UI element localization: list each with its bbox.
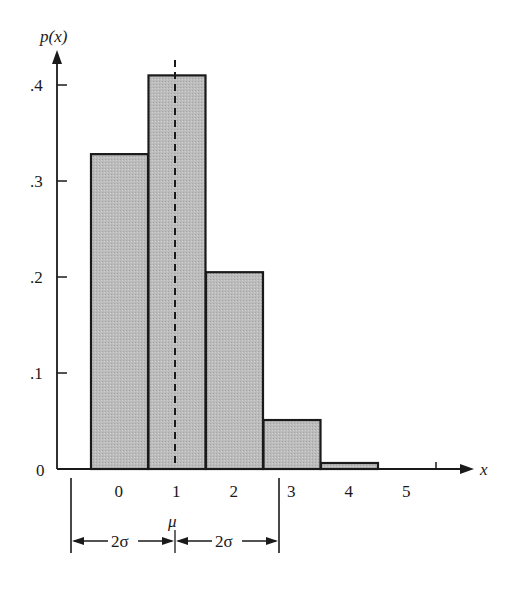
- x-tick-label: 2: [230, 482, 239, 501]
- x-tick-labels: 012345: [115, 482, 411, 501]
- x-axis-label: x: [479, 460, 488, 479]
- bar-2: [206, 272, 263, 469]
- bar-1: [149, 75, 206, 469]
- bar-3: [264, 420, 321, 469]
- y-zero-label: 0: [36, 461, 45, 480]
- right-two-sigma-label: 2σ: [215, 532, 233, 551]
- x-tick-label: 5: [402, 482, 411, 501]
- x-tick-label: 3: [287, 482, 296, 501]
- y-tick-label: .4: [30, 76, 43, 95]
- y-ticks: .1.2.3.4: [30, 76, 67, 383]
- x-tick-label: 4: [345, 482, 354, 501]
- bars-group: [91, 75, 378, 469]
- y-tick-label: .2: [30, 268, 43, 287]
- arrow-right-icon: [266, 537, 278, 545]
- x-axis-arrow-icon: [460, 464, 474, 474]
- y-axis-arrow-icon: [52, 50, 62, 64]
- left-two-sigma-label: 2σ: [111, 532, 129, 551]
- bar-0: [91, 154, 148, 469]
- x-tick-label: 0: [115, 482, 124, 501]
- arrow-left-icon: [72, 537, 84, 545]
- arrow-left-icon: [176, 537, 188, 545]
- y-axis-label: p(x): [39, 27, 68, 46]
- probability-histogram: p(x) .1.2.3.4 0 x 012345 μ 2σ 2σ: [0, 0, 519, 590]
- y-tick-label: .1: [30, 364, 43, 383]
- arrow-right-icon: [162, 537, 174, 545]
- x-tick-label: 1: [172, 482, 181, 501]
- y-tick-label: .3: [30, 172, 43, 191]
- mean-label: μ: [167, 512, 177, 531]
